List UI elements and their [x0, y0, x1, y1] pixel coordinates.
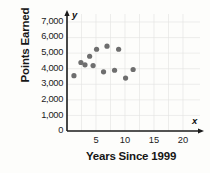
data-point [82, 62, 87, 67]
data-point [94, 47, 99, 52]
data-point [101, 69, 106, 74]
data-point [71, 73, 76, 78]
data-point [123, 75, 128, 80]
gridlines [67, 14, 200, 131]
scatter-plot-figure: Points Earned 7,000 6,000 5,000 4,000 3,… [0, 0, 210, 173]
y-axis-arrow [64, 10, 69, 16]
data-point [131, 67, 136, 72]
data-point [104, 44, 109, 49]
x-axis-arrow [198, 128, 204, 133]
plot-canvas [0, 0, 210, 173]
data-points [71, 44, 135, 81]
data-point [116, 47, 121, 52]
data-point [91, 63, 96, 68]
data-point [112, 68, 117, 73]
data-point [87, 54, 92, 59]
